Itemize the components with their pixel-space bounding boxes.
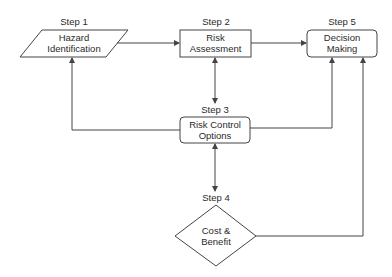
edge-step3-to-step5 (250, 58, 332, 128)
cost-benefit-line2: Benefit (186, 236, 246, 247)
risk-assessment-line2: Assessment (180, 43, 251, 54)
cost-benefit-text: Cost & Benefit (186, 225, 246, 247)
edge-step3-to-step1 (72, 58, 180, 130)
risk-assessment-text: Risk Assessment (180, 32, 251, 54)
cost-benefit-line1: Cost & (186, 225, 246, 236)
risk-assessment-line1: Risk (180, 32, 251, 43)
hazard-line1: Hazard (34, 32, 114, 43)
decision-line1: Decision (307, 32, 377, 43)
risk-control-line1: Risk Control (180, 119, 250, 130)
step1-label: Step 1 (44, 16, 104, 27)
decision-making-text: Decision Making (307, 32, 377, 54)
step5-label: Step 5 (312, 16, 372, 27)
step2-label: Step 2 (186, 16, 246, 27)
decision-line2: Making (307, 43, 377, 54)
hazard-line2: Identification (34, 43, 114, 54)
risk-control-options-text: Risk Control Options (180, 119, 250, 141)
edge-step4-to-step5 (256, 58, 363, 236)
step3-label: Step 3 (185, 104, 245, 115)
risk-control-line2: Options (180, 130, 250, 141)
step4-label: Step 4 (186, 192, 246, 203)
hazard-identification-text: Hazard Identification (34, 32, 114, 54)
